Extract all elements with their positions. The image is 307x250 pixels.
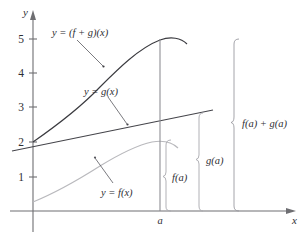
x-axis-label: x	[291, 214, 297, 226]
curve-label-sum: y = (f + g)(x)	[51, 27, 109, 39]
brace-g-at-a	[196, 113, 203, 211]
leader-dot-g	[126, 123, 128, 125]
brace-label-g-at-a: g(a)	[206, 155, 224, 167]
curve-label-g: y = g(x)	[83, 86, 118, 98]
leader-dot-f	[94, 156, 96, 158]
x-tick-label-a: a	[157, 215, 162, 226]
y-tick-label-3: 3	[18, 101, 24, 113]
brace-label-f-at-a: f(a)	[172, 172, 188, 184]
leader-line-f	[95, 158, 113, 183]
function-sum-figure: 1 2 3 4 5 y x a y = (f + g)(x) y = g(x) …	[0, 0, 307, 250]
y-axis-label: y	[22, 6, 28, 18]
leader-dot-sum	[102, 65, 104, 67]
figure-canvas: 1 2 3 4 5 y x a y = (f + g)(x) y = g(x) …	[0, 0, 307, 250]
y-tick-label-5: 5	[18, 33, 24, 45]
y-axis-arrow-icon	[30, 10, 36, 20]
leader-line-g	[108, 97, 127, 124]
y-tick-label-1: 1	[18, 171, 24, 183]
y-tick-label-4: 4	[18, 67, 24, 79]
brace-label-sum-at-a: f(a) + g(a)	[242, 118, 287, 130]
brace-sum-at-a	[231, 39, 239, 211]
curve-label-f: y = f(x)	[100, 187, 133, 199]
brace-f-at-a	[163, 140, 171, 211]
y-tick-label-2: 2	[18, 136, 24, 148]
curve-g-of-x	[12, 110, 213, 151]
leader-line-sum	[77, 40, 103, 66]
